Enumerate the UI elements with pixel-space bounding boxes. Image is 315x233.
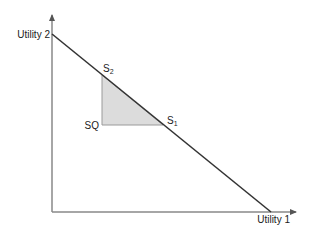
x-axis-label: Utility 1 xyxy=(257,214,290,225)
s2-label: S2 xyxy=(103,63,114,75)
status-quo-label: SQ xyxy=(85,120,100,131)
y-axis-label: Utility 2 xyxy=(17,29,50,40)
s1-label: S1 xyxy=(167,115,178,127)
utility-diagram: Utility 2 Utility 1 SQ S2 S1 xyxy=(0,0,315,233)
